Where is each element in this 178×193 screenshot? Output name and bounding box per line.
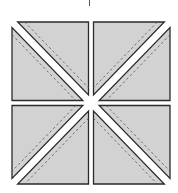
quilt-block-diagram	[0, 0, 178, 193]
